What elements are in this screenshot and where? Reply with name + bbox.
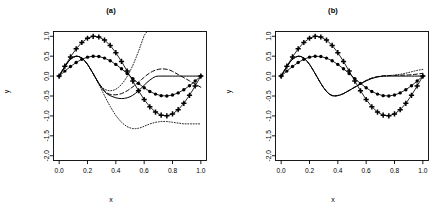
marker-circle	[308, 55, 311, 58]
marker-circle	[182, 88, 185, 91]
x-tick-label: 0.6	[140, 167, 149, 174]
marker-circle	[415, 79, 418, 82]
marker-circle	[188, 84, 191, 87]
marker-circle	[91, 55, 94, 58]
marker-circle	[193, 79, 196, 82]
data-layer	[57, 32, 204, 129]
x-tick-label: 0.8	[168, 167, 177, 174]
marker-circle	[97, 55, 100, 58]
marker-circle	[74, 61, 77, 64]
marker-circle	[279, 74, 282, 77]
marker-circle	[364, 86, 367, 89]
marker-circle	[63, 69, 66, 72]
marker-circle	[131, 77, 134, 80]
marker-circle	[171, 93, 174, 96]
y-tick-label: -0.5	[43, 90, 50, 102]
x-tick-label: 1.0	[196, 167, 205, 174]
marker-circle	[393, 93, 396, 96]
marker-circle	[370, 90, 373, 93]
y-tick-label: 0.5	[43, 51, 50, 60]
marker-circle	[325, 56, 328, 59]
marker-circle	[159, 94, 162, 97]
y-tick-label: 0.0	[265, 71, 272, 80]
marker-circle	[313, 55, 316, 58]
x-tick-label: 0.0	[277, 167, 286, 174]
marker-circle	[376, 92, 379, 95]
x-tick-label: 1.0	[418, 167, 427, 174]
marker-circle	[108, 59, 111, 62]
marker-circle	[176, 91, 179, 94]
y-tick-label: -2.0	[43, 150, 50, 162]
y-tick-label: -1.0	[43, 110, 50, 122]
chart-panel-a: (a) y x 0.00.20.40.60.81.01.00.50.0-0.5-…	[0, 0, 222, 209]
marker-circle	[381, 94, 384, 97]
marker-circle	[347, 72, 350, 75]
marker-circle	[291, 65, 294, 68]
marker-circle	[359, 82, 362, 85]
data-layer	[279, 34, 426, 119]
marker-circle	[137, 82, 140, 85]
chart-panel-b: (b) y x 0.00.20.40.60.81.01.00.50.0-0.5-…	[222, 0, 444, 209]
y-tick-label: 1.0	[265, 31, 272, 40]
x-tick-label: 0.2	[305, 167, 314, 174]
x-tick-label: 0.4	[111, 167, 120, 174]
panel-b-plot-area: 0.00.20.40.60.81.01.00.50.0-0.5-1.0-1.5-…	[222, 0, 444, 209]
marker-circle	[165, 94, 168, 97]
marker-circle	[199, 74, 202, 77]
x-tick-label: 0.0	[55, 167, 64, 174]
marker-circle	[148, 90, 151, 93]
marker-circle	[319, 55, 322, 58]
marker-circle	[353, 77, 356, 80]
marker-circle	[80, 58, 83, 61]
curve-fit-dotted-upper	[59, 32, 201, 91]
marker-circle	[387, 94, 390, 97]
y-tick-label: 1.0	[43, 31, 50, 40]
y-tick-label: -1.5	[43, 130, 50, 142]
marker-circle	[142, 86, 145, 89]
marker-circle	[404, 88, 407, 91]
marker-circle	[296, 61, 299, 64]
marker-circle	[342, 67, 345, 70]
y-tick-label: -2.0	[265, 150, 272, 162]
marker-circle	[398, 91, 401, 94]
marker-circle	[410, 84, 413, 87]
y-tick-label: -0.5	[265, 90, 272, 102]
marker-circle	[330, 59, 333, 62]
marker-circle	[57, 74, 60, 77]
marker-circle	[86, 55, 89, 58]
marker-circle	[69, 65, 72, 68]
x-tick-label: 0.4	[333, 167, 342, 174]
figure-panel-container: (a) y x 0.00.20.40.60.81.01.00.50.0-0.5-…	[0, 0, 444, 209]
marker-circle	[285, 69, 288, 72]
marker-circle	[421, 74, 424, 77]
y-tick-label: -1.0	[265, 110, 272, 122]
marker-circle	[120, 67, 123, 70]
x-tick-label: 0.6	[362, 167, 371, 174]
y-tick-label: -1.5	[265, 130, 272, 142]
marker-circle	[103, 56, 106, 59]
y-tick-label: 0.0	[43, 71, 50, 80]
marker-circle	[302, 58, 305, 61]
marker-circle	[125, 72, 128, 75]
marker-circle	[114, 63, 117, 66]
x-tick-label: 0.2	[83, 167, 92, 174]
x-tick-label: 0.8	[390, 167, 399, 174]
y-tick-label: 0.5	[265, 51, 272, 60]
marker-circle	[336, 63, 339, 66]
marker-circle	[154, 92, 157, 95]
panel-a-plot-area: 0.00.20.40.60.81.01.00.50.0-0.5-1.0-1.5-…	[0, 0, 222, 209]
